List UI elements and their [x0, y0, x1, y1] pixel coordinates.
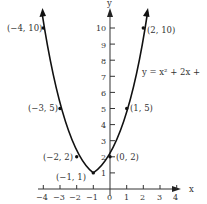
y-tick-label: 1 — [101, 169, 106, 178]
label-m1: (−1, 1) — [56, 172, 86, 182]
x-tick-label: −2 — [69, 193, 81, 202]
x-tick-label: 1 — [124, 193, 129, 202]
curve-left-arrow-icon — [40, 8, 47, 17]
y-tick-label: 10 — [96, 24, 106, 33]
x-tick-label: 2 — [140, 193, 145, 202]
point-1 — [125, 107, 128, 110]
x-tick-label: −4 — [36, 193, 48, 202]
y-tick-label: 8 — [101, 57, 106, 66]
point-m3 — [58, 107, 61, 110]
x-ticks: −4 −3 −2 −1 0 1 2 3 4 — [36, 185, 178, 202]
y-ticks: 1 2 3 4 5 6 7 8 9 10 — [96, 24, 115, 178]
label-2: (2, 10) — [147, 25, 175, 35]
label-m4: (−4, 10) — [7, 23, 42, 33]
curve-right-arrow-icon — [143, 8, 150, 17]
parabola-chart: x y −4 −3 −2 −1 0 1 2 3 4 1 2 3 4 — [0, 0, 207, 204]
y-tick-label: 3 — [101, 137, 106, 146]
y-axis-arrow-icon — [107, 8, 113, 17]
x-axis-label: x — [189, 184, 194, 194]
y-axis-label: y — [106, 0, 112, 8]
point-0 — [108, 155, 111, 158]
y-tick-label: 4 — [101, 121, 106, 130]
label-1: (1, 5) — [130, 103, 153, 113]
y-tick-label: 9 — [101, 41, 106, 50]
label-m3: (−3, 5) — [28, 103, 58, 113]
y-tick-label: 6 — [101, 89, 106, 98]
x-tick-label: 4 — [173, 193, 178, 202]
label-0: (0, 2) — [116, 152, 139, 162]
point-m1 — [92, 171, 95, 174]
x-tick-label: 3 — [157, 193, 162, 202]
x-tick-label: 0 — [107, 193, 112, 202]
point-m2 — [75, 155, 78, 158]
y-tick-label: 7 — [101, 73, 106, 82]
y-tick-label: 5 — [101, 105, 106, 114]
x-tick-label: −1 — [86, 193, 98, 202]
x-tick-label: −3 — [53, 193, 65, 202]
point-2 — [142, 26, 145, 29]
parabola-curve — [42, 12, 148, 173]
equation-label: y = x² + 2x + — [141, 67, 200, 77]
label-m2: (−2, 2) — [43, 152, 73, 162]
